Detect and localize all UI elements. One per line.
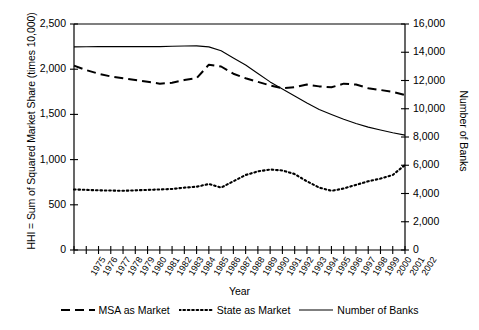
y-right-tick-16000: 16,000 (413, 17, 445, 29)
legend-swatch-dashed (61, 306, 95, 314)
series-line-msa-as-market (74, 65, 405, 95)
y-right-tick-6000: 6,000 (413, 158, 439, 170)
y-right-tick-0: 0 (413, 243, 419, 255)
legend-swatch-dotted (179, 306, 213, 314)
legend-item-msa-as-market[interactable]: MSA as Market (61, 304, 170, 316)
plot-canvas (0, 0, 479, 300)
series-line-state-as-market (74, 165, 405, 191)
y-left-tick-2500: 2,500 (40, 17, 66, 29)
legend-swatch-solid (299, 306, 333, 314)
y-left-tick-500: 500 (48, 198, 66, 210)
y-right-tick-8000: 8,000 (413, 130, 439, 142)
y-left-tick-1500: 1,500 (40, 107, 66, 119)
legend-label: MSA as Market (99, 304, 170, 316)
legend-label: State as Market (217, 304, 291, 316)
chart-legend: MSA as MarketState as MarketNumber of Ba… (0, 304, 479, 316)
series-line-number-of-banks (74, 46, 405, 135)
legend-label: Number of Banks (337, 304, 418, 316)
y-left-tick-2000: 2,000 (40, 62, 66, 74)
y-left-tick-1000: 1,000 (40, 153, 66, 165)
y-left-tick-0: 0 (60, 243, 66, 255)
chart-figure: HHI = Sum of Squared Market Share (times… (0, 0, 479, 330)
legend-item-state-as-market[interactable]: State as Market (179, 304, 291, 316)
y-right-tick-14000: 14,000 (413, 45, 445, 57)
y-right-tick-2000: 2,000 (413, 215, 439, 227)
y-right-tick-4000: 4,000 (413, 187, 439, 199)
y-right-tick-10000: 10,000 (413, 102, 445, 114)
legend-item-number-of-banks[interactable]: Number of Banks (299, 304, 418, 316)
y-right-tick-12000: 12,000 (413, 74, 445, 86)
